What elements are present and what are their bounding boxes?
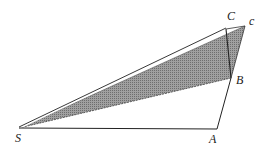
label-B: B [236,73,244,87]
segment-SA [19,128,217,129]
diagram-canvas: S A B C c [0,0,267,154]
label-A: A [208,132,217,146]
label-C: C [227,9,236,23]
label-S: S [15,131,21,145]
label-c: c [249,14,255,28]
segment-AB [217,78,231,129]
